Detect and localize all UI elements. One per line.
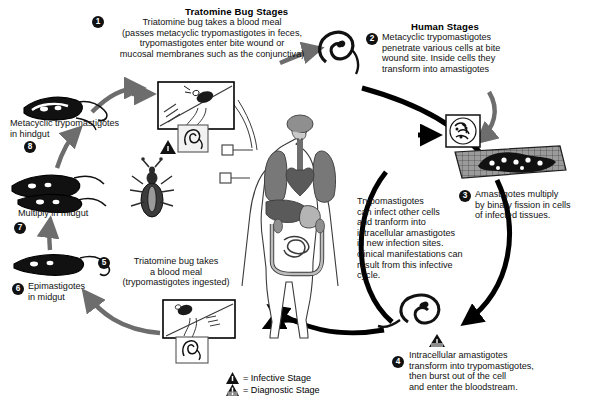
filled-triangle-icon xyxy=(226,372,239,384)
life-cycle-diagram: Tratomine Bug Stages Human Stages 1 Tria… xyxy=(0,0,596,412)
infective-triangle-icon-stage1 xyxy=(160,140,176,154)
legend-label-diagnostic: = Diagnostic Stage xyxy=(243,384,320,396)
legend-row-diagnostic: = Diagnostic Stage xyxy=(226,384,320,396)
legend-label-infective: = Infective Stage xyxy=(243,372,311,384)
outline-triangle-icon xyxy=(226,384,239,396)
stage-marker-layer xyxy=(0,0,596,412)
legend: = Infective Stage = Diagnostic Stage xyxy=(226,372,320,396)
diagnostic-triangle-icon-stage4 xyxy=(429,334,445,347)
legend-row-infective: = Infective Stage xyxy=(226,372,320,384)
